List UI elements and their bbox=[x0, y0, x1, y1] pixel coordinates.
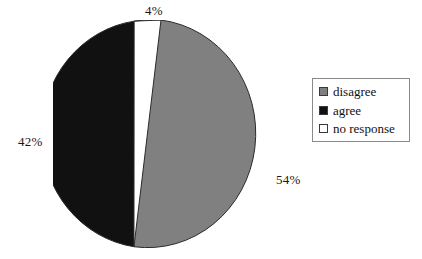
chart-legend: disagree agree no response bbox=[312, 78, 410, 142]
legend-label-no-response: no response bbox=[333, 122, 395, 135]
pie-slice-no-response[interactable] bbox=[134, 20, 161, 21]
pie-svg bbox=[53, 20, 269, 248]
pie-label-disagree: 54% bbox=[276, 172, 300, 188]
pie-label-no-response: 4% bbox=[145, 3, 163, 19]
legend-item-agree[interactable]: agree bbox=[319, 102, 404, 119]
legend-swatch-agree-icon bbox=[319, 106, 328, 115]
pie-label-agree: 42% bbox=[18, 134, 42, 150]
legend-item-disagree[interactable]: disagree bbox=[319, 83, 404, 100]
legend-label-disagree: disagree bbox=[333, 85, 376, 98]
pie-slice-disagree[interactable] bbox=[134, 20, 256, 248]
pie-chart-graphic bbox=[53, 20, 269, 248]
legend-swatch-disagree-icon bbox=[319, 87, 328, 96]
legend-swatch-no-response-icon bbox=[319, 124, 328, 133]
pie-chart-figure: 4% 42% 54% disagree agree no response bbox=[0, 0, 422, 259]
pie-slice-agree[interactable] bbox=[53, 21, 134, 247]
legend-label-agree: agree bbox=[333, 104, 361, 117]
legend-item-no-response[interactable]: no response bbox=[319, 120, 404, 137]
